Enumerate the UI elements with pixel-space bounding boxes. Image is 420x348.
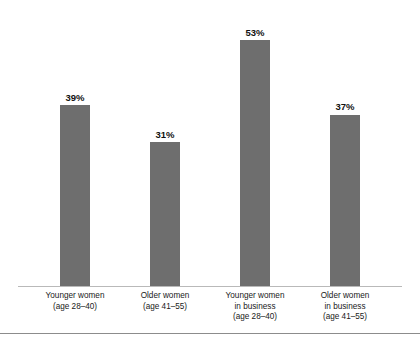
bar-group-older-women: 31% bbox=[120, 8, 210, 286]
category-label-line: Younger women bbox=[23, 291, 127, 302]
bar-value-label: 31% bbox=[155, 130, 174, 140]
bar-value-label: 53% bbox=[245, 28, 264, 38]
bar-chart-figure: 39% 31% 53% 37% Younger women (age 28–40… bbox=[0, 0, 420, 348]
bar-group-older-women-in-business: 37% bbox=[300, 8, 390, 286]
category-axis-labels: Younger women (age 28–40) Older women (a… bbox=[30, 291, 390, 335]
bar-group-younger-women-in-business: 53% bbox=[210, 8, 300, 286]
x-axis-line bbox=[18, 286, 402, 287]
plot-area: 39% 31% 53% 37% bbox=[30, 8, 390, 286]
category-label-line: Younger women bbox=[203, 291, 307, 302]
footer-divider bbox=[0, 333, 420, 334]
category-label-line: (age 28–40) bbox=[203, 312, 307, 323]
bar-value-label: 37% bbox=[335, 102, 354, 112]
category-label-line: Older women bbox=[293, 291, 397, 302]
bar-group-younger-women: 39% bbox=[30, 8, 120, 286]
category-label-line: in business bbox=[293, 302, 397, 313]
category-label-older-women-in-business: Older women in business (age 41–55) bbox=[293, 291, 397, 323]
category-label-younger-women: Younger women (age 28–40) bbox=[23, 291, 127, 312]
bar-younger-women[interactable]: 39% bbox=[60, 105, 90, 286]
category-label-line: (age 41–55) bbox=[113, 302, 217, 313]
category-label-older-women: Older women (age 41–55) bbox=[113, 291, 217, 312]
bar-younger-women-in-business[interactable]: 53% bbox=[240, 40, 270, 286]
category-label-line: Older women bbox=[113, 291, 217, 302]
bar-older-women-in-business[interactable]: 37% bbox=[330, 115, 360, 286]
category-label-line: in business bbox=[203, 302, 307, 313]
bar-older-women[interactable]: 31% bbox=[150, 142, 180, 286]
category-label-line: (age 28–40) bbox=[23, 302, 127, 313]
bar-value-label: 39% bbox=[65, 93, 84, 103]
category-label-line: (age 41–55) bbox=[293, 312, 397, 323]
category-label-younger-women-in-business: Younger women in business (age 28–40) bbox=[203, 291, 307, 323]
